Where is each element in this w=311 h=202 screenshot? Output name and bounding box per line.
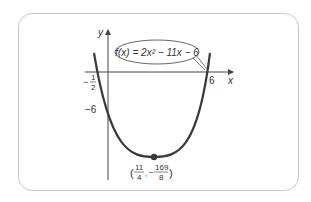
vertex-label: ( 11 4 , − 169 8 ): [130, 163, 173, 182]
svg-text:169: 169: [155, 163, 169, 172]
y-axis-label: y: [97, 27, 104, 38]
svg-text:4: 4: [137, 173, 142, 182]
svg-text:): ): [169, 167, 173, 179]
function-label: f(x) = 2x² − 11x − 6: [115, 47, 199, 58]
x-axis-label: x: [227, 75, 234, 86]
svg-text:8: 8: [159, 173, 164, 182]
y-intercept-label: −6: [85, 104, 97, 115]
x-intercept-left-label: − 1 2: [83, 73, 96, 92]
svg-text:(: (: [130, 167, 134, 179]
x-intercept-right-label: 6: [209, 75, 215, 86]
parabola-curve: [94, 53, 210, 157]
svg-text:2: 2: [91, 83, 96, 92]
svg-text:−: −: [149, 168, 154, 177]
svg-text:11: 11: [135, 163, 144, 172]
parabola-graph: f(x) = 2x² − 11x − 6 y x 6 − 1 2 −6 ( 11…: [0, 0, 311, 202]
svg-text:−: −: [83, 77, 88, 87]
svg-text:1: 1: [91, 73, 96, 82]
svg-text:,: ,: [145, 169, 147, 178]
vertex-point: [151, 154, 157, 160]
